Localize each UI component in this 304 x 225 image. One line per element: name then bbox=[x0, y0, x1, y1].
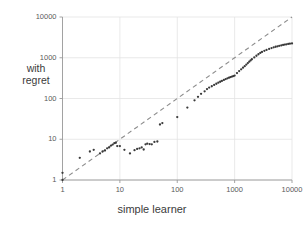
y-axis-label-line2: regret bbox=[12, 74, 60, 86]
y-tick-label: 1 bbox=[19, 175, 57, 184]
y-axis-label-line1: with bbox=[12, 62, 60, 74]
x-tick-label: 10000 bbox=[272, 185, 304, 194]
y-tick-label: 10000 bbox=[19, 12, 57, 21]
x-tick-label: 1000 bbox=[215, 185, 255, 194]
scatter-chart-figure: with regret simple learner 1101001000100… bbox=[0, 0, 304, 225]
y-axis-label: with regret bbox=[12, 62, 60, 86]
y-tick-label: 10 bbox=[19, 134, 57, 143]
y-tick-label: 1000 bbox=[19, 53, 57, 62]
x-tick-label: 100 bbox=[157, 185, 197, 194]
x-tick-label: 1 bbox=[43, 185, 83, 194]
x-tick-label: 10 bbox=[100, 185, 140, 194]
y-tick-label: 100 bbox=[19, 94, 57, 103]
x-axis-label: simple learner bbox=[0, 203, 304, 215]
